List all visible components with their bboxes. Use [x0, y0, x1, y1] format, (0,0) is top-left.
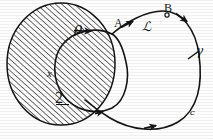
figure-vector [0, 0, 213, 139]
label-radius-rho: ρ [74, 21, 82, 35]
label-point-x: x [47, 68, 52, 79]
label-region-omega-text: 2 [55, 89, 63, 106]
label-curve-c: ᶜ [190, 108, 195, 122]
outer-curve-arrowheads [121, 14, 187, 129]
hatched-disk [7, 3, 115, 125]
label-region-omega: 2 [55, 90, 69, 105]
label-point-a: A [114, 17, 123, 29]
label-point-b: B [164, 2, 172, 14]
label-point-gamma: γ [196, 45, 203, 57]
label-curve-l: ℒ [142, 20, 151, 33]
figure-canvas: A B ℒ γ ᶜ ρ x 2 [0, 0, 213, 139]
